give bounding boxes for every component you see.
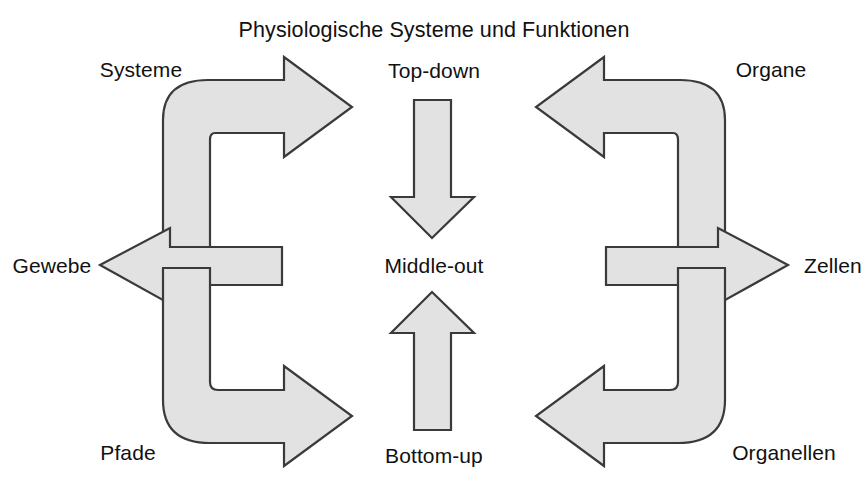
- center-up-arrow: [391, 292, 474, 430]
- label-top-down: Top-down: [388, 60, 480, 81]
- diagram-canvas: Physiologische Systeme und Funktionen Sy…: [0, 0, 868, 490]
- center-down-arrow: [391, 100, 474, 238]
- label-zellen: Zellen: [804, 255, 862, 276]
- label-bottom-up: Bottom-up: [385, 445, 483, 466]
- right-upper-elbow-arrow: [536, 57, 725, 262]
- label-organellen: Organellen: [732, 442, 836, 463]
- left-upper-elbow-arrow: [163, 57, 352, 262]
- label-systeme: Systeme: [100, 59, 182, 80]
- left-lower-elbow-arrow: [163, 268, 352, 466]
- label-gewebe: Gewebe: [13, 255, 92, 276]
- label-middle-out: Middle-out: [384, 255, 483, 276]
- label-pfade: Pfade: [100, 442, 155, 463]
- diagram-title: Physiologische Systeme und Funktionen: [239, 20, 630, 42]
- right-lower-elbow-arrow: [536, 268, 725, 466]
- label-organe: Organe: [736, 59, 807, 80]
